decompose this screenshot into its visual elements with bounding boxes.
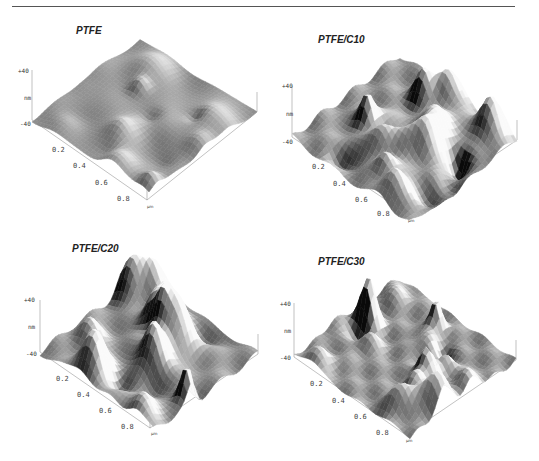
x-tick: 0.2 — [52, 146, 65, 154]
panel-title: PTFE — [76, 25, 102, 36]
panel-title: PTFE/C10 — [318, 34, 365, 45]
x-tick: 0.6 — [354, 413, 367, 421]
x-tick: 0.8 — [121, 423, 134, 431]
afm-panel-ptfe-c30: PTFE/C30 +40 nm -40 0.2 0.4 0.6 0.8 μm — [270, 230, 539, 460]
x-tick: 0.4 — [332, 397, 345, 405]
afm-panel-ptfe-c20: PTFE/C20 +40 nm -40 0.2 0.4 0.6 0.8 μm — [0, 230, 269, 460]
x-tick: 0.8 — [377, 210, 390, 218]
x-tick: 0.8 — [376, 429, 389, 437]
z-tick-bottom: -40 — [26, 350, 37, 357]
z-tick-top: +40 — [280, 300, 291, 307]
x-unit: μm — [151, 431, 157, 436]
x-unit: μm — [408, 218, 414, 223]
z-tick-bottom: -40 — [280, 354, 291, 361]
afm-surface-ptfe-c10 — [270, 0, 539, 230]
afm-surface-ptfe-c30 — [270, 230, 539, 460]
z-tick-bottom: -40 — [20, 120, 31, 127]
z-tick-unit: nm — [24, 94, 31, 101]
afm-panel-ptfe-c10: PTFE/C10 +40 nm -40 0.2 0.4 0.6 0.8 μm — [270, 0, 539, 230]
x-tick: 0.2 — [56, 375, 69, 383]
z-tick-unit: nm — [286, 110, 293, 117]
x-tick: 0.6 — [99, 407, 112, 415]
x-tick: 0.4 — [77, 391, 90, 399]
z-tick-unit: nm — [284, 327, 291, 334]
z-tick-top: +40 — [18, 67, 29, 74]
z-tick-top: +40 — [282, 82, 293, 89]
afm-panel-ptfe: PTFE +40 nm -40 0.2 0.4 0.6 0.8 μm — [0, 0, 269, 230]
x-tick: 0.2 — [310, 380, 323, 388]
x-unit: μm — [406, 438, 412, 443]
panel-title: PTFE/C30 — [318, 256, 365, 267]
x-tick: 0.6 — [355, 196, 368, 204]
x-tick: 0.4 — [333, 180, 346, 188]
x-tick: 0.6 — [95, 179, 108, 187]
z-tick-unit: nm — [28, 323, 35, 330]
x-tick: 0.8 — [117, 195, 130, 203]
z-tick-top: +40 — [24, 296, 35, 303]
afm-surface-ptfe — [0, 0, 269, 230]
panel-title: PTFE/C20 — [72, 243, 119, 254]
afm-surface-ptfe-c20 — [0, 230, 269, 460]
x-unit: μm — [147, 204, 153, 209]
z-tick-bottom: -40 — [282, 138, 293, 145]
x-tick: 0.2 — [312, 163, 325, 171]
x-tick: 0.4 — [73, 162, 86, 170]
